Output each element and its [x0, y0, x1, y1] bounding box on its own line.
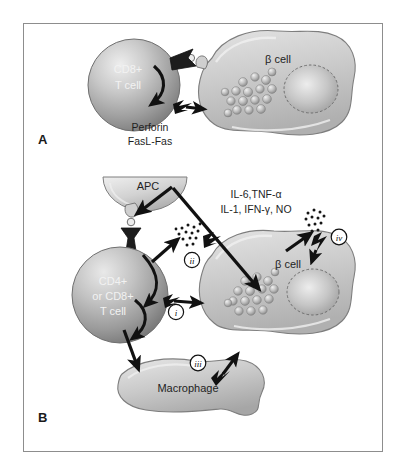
figure-border [23, 23, 383, 452]
panel-b-label: B [38, 410, 48, 425]
figure-root: β cell CD8+ T cell [0, 0, 406, 465]
panel-a-label: A [38, 132, 48, 147]
